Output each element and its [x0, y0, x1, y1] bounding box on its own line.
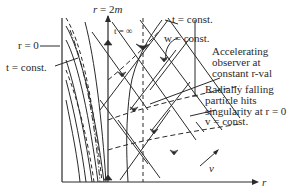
radially-falling-label: Radially falling particle hits singulari… [205, 84, 286, 117]
t-infinity-label: t = ∞ [114, 26, 133, 37]
r-zero-label: r = 0 [18, 40, 39, 51]
t-const-left-label: t = const. [6, 62, 47, 73]
accelerating-observer-label: Accelerating observer at constant r-val [212, 46, 272, 79]
v-axis-label: v [209, 163, 214, 174]
r-axis-label: r [262, 177, 266, 188]
t-const-top-label: t = const. [172, 14, 213, 25]
w-const-label: w = const. [164, 33, 210, 44]
v-const-label: v = const. [205, 116, 248, 127]
r-horizon-label: r = 2m [93, 4, 122, 15]
